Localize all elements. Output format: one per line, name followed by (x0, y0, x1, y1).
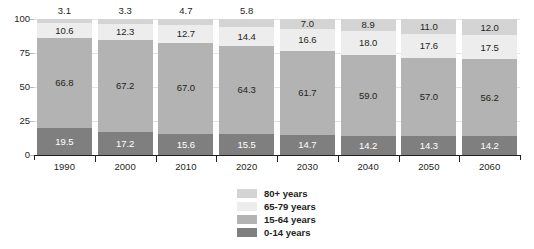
x-axis-end-cap (34, 155, 35, 160)
x-axis-tick-label: 2050 (401, 162, 456, 172)
y-axis-tick-label: 100 (0, 14, 30, 24)
x-axis-tick-label: 2010 (158, 162, 213, 172)
bar-value-label: 3.3 (98, 6, 153, 16)
bar-value-label: 8.9 (362, 20, 375, 30)
bar-segment[interactable]: 15.5 (219, 134, 274, 155)
bar-segment[interactable]: 14.4 (219, 27, 274, 47)
legend-item-label: 65-79 years (264, 202, 316, 212)
bar-segment[interactable]: 11.0 (401, 19, 456, 34)
bar-value-label: 67.0 (177, 83, 196, 93)
bar-segment[interactable]: 16.6 (280, 29, 335, 52)
bar-value-label: 10.6 (55, 26, 74, 36)
bar-segment[interactable]: 18.0 (341, 31, 396, 55)
bar-value-label: 61.7 (298, 88, 317, 98)
bar-segment[interactable]: 8.9 (341, 19, 396, 31)
bar-value-label: 56.2 (480, 93, 499, 103)
bar-segment[interactable]: 10.6 (37, 23, 92, 37)
legend-item-label: 0-14 years (264, 228, 310, 238)
legend-item[interactable]: 0-14 years (237, 227, 316, 238)
bar-value-label: 12.0 (480, 23, 499, 33)
bar-group[interactable]: 8.918.059.014.2 (341, 19, 396, 155)
x-axis-tick-mark (459, 156, 460, 162)
bar-segment[interactable]: 14.7 (280, 135, 335, 155)
bar-segment[interactable]: 15.6 (158, 134, 213, 155)
bar-segment[interactable]: 56.2 (462, 59, 517, 135)
x-axis-tick-mark (95, 156, 96, 162)
bar-value-label: 5.8 (219, 6, 274, 16)
bar-value-label: 18.0 (359, 38, 378, 48)
x-axis-tick-label: 2030 (280, 162, 335, 172)
bar-segment[interactable]: 17.6 (401, 34, 456, 58)
bar-segment[interactable]: 5.8 (219, 19, 274, 27)
bar-value-label: 19.5 (55, 137, 74, 147)
y-axis-tick-label: 25 (0, 116, 30, 126)
legend-item-label: 80+ years (264, 189, 308, 199)
bar-segment[interactable]: 7.0 (280, 19, 335, 29)
y-axis-tick-mark (30, 87, 34, 88)
bar-segment[interactable]: 14.2 (341, 136, 396, 155)
bar-value-label: 17.2 (116, 139, 135, 149)
bar-group[interactable]: 12.017.556.214.2 (462, 19, 517, 155)
bar-value-label: 12.7 (177, 29, 196, 39)
legend-swatch-icon (237, 202, 257, 211)
bar-value-label: 57.0 (420, 92, 439, 102)
bars-layer: 3.110.666.819.53.312.367.217.24.712.767.… (34, 19, 520, 155)
legend-swatch-icon (237, 228, 257, 237)
bar-value-label: 14.2 (480, 141, 499, 151)
bar-value-label: 14.3 (420, 141, 439, 151)
bar-segment[interactable]: 17.2 (98, 132, 153, 155)
bar-segment[interactable]: 67.2 (98, 40, 153, 131)
x-axis-tick-mark (277, 156, 278, 162)
x-axis-end-cap (520, 155, 521, 160)
y-axis-tick-mark (30, 53, 34, 54)
x-axis-tick-mark (338, 156, 339, 162)
y-axis-tick-label: 75 (0, 48, 30, 58)
bar-value-label: 15.5 (237, 140, 256, 150)
bar-segment[interactable]: 64.3 (219, 46, 274, 133)
bar-value-label: 11.0 (420, 22, 438, 32)
bar-value-label: 67.2 (116, 81, 135, 91)
legend-item[interactable]: 15-64 years (237, 214, 316, 225)
bar-segment[interactable]: 17.5 (462, 35, 517, 59)
bar-value-label: 14.7 (298, 140, 317, 150)
bar-group[interactable]: 5.814.464.315.5 (219, 19, 274, 155)
bar-value-label: 14.2 (359, 141, 378, 151)
bar-value-label: 16.6 (298, 35, 317, 45)
bar-segment[interactable]: 12.3 (98, 24, 153, 41)
x-axis-tick-mark (156, 156, 157, 162)
bar-segment[interactable]: 14.2 (462, 136, 517, 155)
y-axis-tick-mark (30, 19, 34, 20)
legend-swatch-icon (237, 215, 257, 224)
bar-value-label: 17.6 (420, 41, 439, 51)
bar-segment[interactable]: 19.5 (37, 128, 92, 155)
bar-segment[interactable]: 57.0 (401, 58, 456, 136)
bar-value-label: 14.4 (237, 32, 256, 42)
x-axis-tick-label: 1990 (37, 162, 92, 172)
bar-group[interactable]: 7.016.661.714.7 (280, 19, 335, 155)
legend-item[interactable]: 65-79 years (237, 201, 316, 212)
bar-segment[interactable]: 66.8 (37, 38, 92, 129)
bar-segment[interactable]: 12.7 (158, 25, 213, 42)
bar-group[interactable]: 3.110.666.819.5 (37, 19, 92, 155)
bar-segment[interactable]: 14.3 (401, 136, 456, 155)
bar-value-label: 15.6 (177, 140, 196, 150)
y-axis: 0255075100 (0, 19, 30, 155)
x-axis-tick-label: 2000 (98, 162, 153, 172)
stacked-bar-chart: 0255075100 3.110.666.819.53.312.367.217.… (0, 0, 534, 249)
bar-group[interactable]: 11.017.657.014.3 (401, 19, 456, 155)
legend-item-label: 15-64 years (264, 215, 316, 225)
legend: 80+ years65-79 years15-64 years0-14 year… (237, 188, 316, 238)
x-axis-tick-label: 2040 (341, 162, 396, 172)
bar-segment[interactable]: 12.0 (462, 19, 517, 35)
x-axis-tick-label: 2060 (462, 162, 517, 172)
bar-value-label: 3.1 (37, 6, 92, 16)
bar-segment[interactable]: 59.0 (341, 55, 396, 135)
bar-segment[interactable]: 61.7 (280, 51, 335, 135)
bar-group[interactable]: 3.312.367.217.2 (98, 19, 153, 155)
bar-value-label: 4.7 (158, 6, 213, 16)
x-axis-tick-label: 2020 (219, 162, 274, 172)
y-axis-tick-label: 0 (0, 150, 30, 160)
bar-segment[interactable]: 67.0 (158, 43, 213, 134)
bar-group[interactable]: 4.712.767.015.6 (158, 19, 213, 155)
legend-item[interactable]: 80+ years (237, 188, 316, 199)
